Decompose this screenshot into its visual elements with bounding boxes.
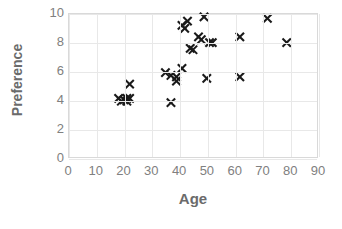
y-axis-tick-label: 0 — [38, 151, 64, 164]
gridline-vertical — [319, 14, 320, 157]
data-point-layer — [69, 14, 317, 157]
y-axis-tick-label: 4 — [38, 93, 64, 106]
gridline-vertical — [208, 14, 209, 157]
gridline-vertical — [263, 14, 264, 157]
y-axis-tick-label: 10 — [38, 6, 64, 19]
gridline-vertical — [291, 14, 292, 157]
x-axis-title: Age — [68, 190, 318, 207]
gridline-horizontal — [69, 159, 317, 160]
x-axis-tick-label: 30 — [136, 164, 166, 177]
x-axis-tick-label: 0 — [53, 164, 83, 177]
data-point — [167, 99, 175, 107]
gridline-horizontal — [69, 14, 317, 15]
x-axis-tick-label: 90 — [303, 164, 333, 177]
x-axis-tick-label: 40 — [164, 164, 194, 177]
gridline-horizontal — [69, 43, 317, 44]
data-point — [183, 17, 191, 25]
plot-area — [68, 13, 318, 158]
scatter-chart: Preference 0246810 0102030405060708090 A… — [0, 0, 342, 229]
gridline-vertical — [125, 14, 126, 157]
gridline-vertical — [69, 14, 70, 157]
y-axis-tick-labels: 0246810 — [34, 0, 64, 229]
y-axis-tick-label: 8 — [38, 35, 64, 48]
gridline-horizontal — [69, 101, 317, 102]
data-point — [125, 80, 133, 88]
y-axis-title-text: Preference — [9, 44, 25, 116]
data-point — [236, 73, 244, 81]
y-axis-tick-label: 2 — [38, 122, 64, 135]
gridline-horizontal — [69, 72, 317, 73]
data-point — [181, 24, 189, 32]
gridline-vertical — [97, 14, 98, 157]
x-axis-tick-label: 60 — [220, 164, 250, 177]
gridline-vertical — [236, 14, 237, 157]
y-axis-title: Preference — [0, 0, 34, 160]
x-axis-tick-label: 70 — [247, 164, 277, 177]
gridline-vertical — [180, 14, 181, 157]
gridline-vertical — [152, 14, 153, 157]
gridline-horizontal — [69, 130, 317, 131]
data-point — [203, 74, 211, 82]
data-point — [236, 33, 244, 41]
x-axis-tick-label: 80 — [275, 164, 305, 177]
x-axis-tick-label: 50 — [192, 164, 222, 177]
data-point — [263, 14, 271, 22]
x-axis-tick-label: 10 — [81, 164, 111, 177]
y-axis-tick-label: 6 — [38, 64, 64, 77]
x-axis-tick-label: 20 — [109, 164, 139, 177]
